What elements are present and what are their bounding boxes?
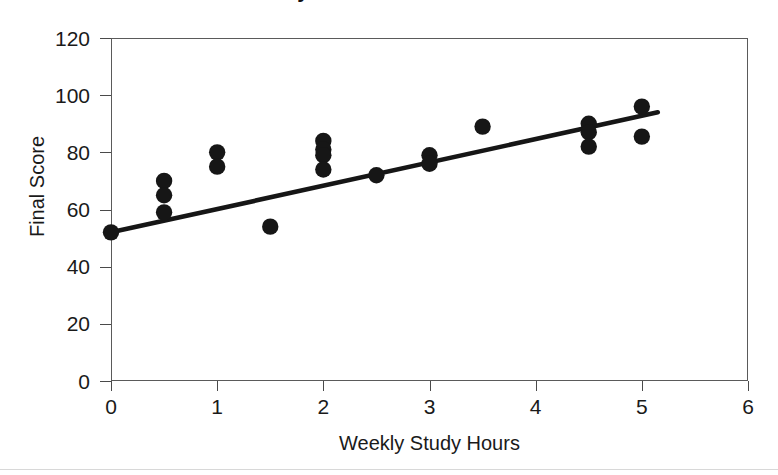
- y-tick-mark-80: [100, 152, 111, 153]
- x-tick-mark-6: [748, 381, 749, 391]
- y-tick-mark-0: [100, 381, 111, 382]
- scatter-plot-figure: Study Hours vs Final Score 120 100 80 60…: [0, 0, 778, 475]
- bottom-divider: [0, 469, 778, 470]
- x-tick-mark-3: [430, 381, 431, 391]
- x-tick-mark-5: [642, 381, 643, 391]
- x-axis-title: Weekly Study Hours: [111, 432, 748, 455]
- y-tick-mark-100: [100, 95, 111, 96]
- x-tick-mark-1: [217, 381, 218, 391]
- x-tick-label-6: 6: [728, 396, 768, 417]
- y-tick-mark-60: [100, 210, 111, 211]
- x-tick-label-4: 4: [516, 396, 556, 417]
- x-tick-label-3: 3: [410, 396, 450, 417]
- y-tick-label-120: 120: [32, 28, 90, 49]
- y-axis-title: Final Score: [26, 77, 49, 297]
- y-tick-mark-40: [100, 267, 111, 268]
- chart-title: Study Hours vs Final Score: [0, 0, 778, 8]
- x-tick-mark-4: [536, 381, 537, 391]
- x-tick-label-1: 1: [197, 396, 237, 417]
- x-tick-mark-0: [111, 381, 112, 391]
- y-tick-label-20: 20: [32, 313, 90, 334]
- x-tick-label-5: 5: [622, 396, 662, 417]
- x-tick-label-0: 0: [91, 396, 131, 417]
- y-tick-label-0: 0: [32, 371, 90, 392]
- y-tick-mark-120: [100, 38, 111, 39]
- x-tick-label-2: 2: [303, 396, 343, 417]
- x-tick-mark-2: [323, 381, 324, 391]
- plot-area-frame: [111, 38, 748, 381]
- y-tick-mark-20: [100, 324, 111, 325]
